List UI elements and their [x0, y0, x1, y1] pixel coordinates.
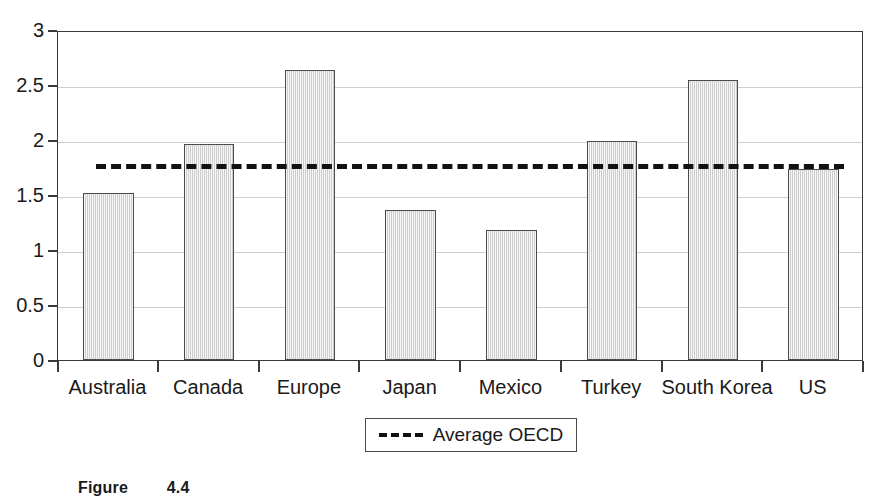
plot-area — [57, 31, 863, 361]
y-tick-mark — [48, 85, 57, 87]
x-tick-mark — [560, 361, 562, 372]
x-tick-mark — [358, 361, 360, 372]
x-axis-label-mexico: Mexico — [460, 374, 561, 400]
x-tick-mark — [862, 361, 864, 372]
x-axis-label-japan: Japan — [359, 374, 460, 400]
bar-canada — [184, 144, 234, 360]
y-tick-mark — [48, 360, 57, 362]
legend: Average OECD — [365, 418, 577, 452]
y-tick-label: 2.5 — [16, 72, 44, 98]
x-axis-label-us: US — [762, 374, 863, 400]
y-tick-label: 0 — [33, 347, 44, 373]
bar-australia — [83, 193, 133, 360]
y-tick-label: 1.5 — [16, 182, 44, 208]
y-tick-label: 1 — [33, 237, 44, 263]
y-tick-label: 2 — [33, 127, 44, 153]
x-tick-mark — [258, 361, 260, 372]
y-tick-mark — [48, 195, 57, 197]
gridline — [58, 87, 862, 88]
x-tick-mark — [761, 361, 763, 372]
gridline — [58, 307, 862, 308]
x-axis-label-europe: Europe — [259, 374, 360, 400]
figure-caption: Figure 4.4 — [78, 479, 190, 497]
bar-mexico — [486, 230, 536, 360]
legend-item-label: Average OECD — [433, 424, 564, 446]
caption-prefix: Figure — [78, 479, 128, 496]
gridline — [58, 197, 862, 198]
x-axis-label-south-korea: South Korea — [662, 374, 763, 400]
bar-europe — [285, 70, 335, 360]
y-axis: 32.521.510.50 — [0, 0, 57, 392]
bar-turkey — [587, 141, 637, 360]
y-tick-mark — [48, 30, 57, 32]
x-axis-label-canada: Canada — [158, 374, 259, 400]
average-oecd-reference-line — [96, 164, 844, 169]
bar-us — [788, 169, 838, 360]
x-axis: AustraliaCanadaEuropeJapanMexicoTurkeySo… — [57, 361, 863, 411]
x-axis-label-australia: Australia — [57, 374, 158, 400]
x-tick-mark — [157, 361, 159, 372]
caption-number: 4.4 — [167, 479, 190, 496]
y-tick-mark — [48, 250, 57, 252]
x-tick-mark — [661, 361, 663, 372]
legend-dashed-line-icon — [379, 433, 423, 437]
x-axis-label-turkey: Turkey — [561, 374, 662, 400]
gridline — [58, 252, 862, 253]
y-tick-label: 0.5 — [16, 292, 44, 318]
x-tick-mark — [57, 361, 59, 372]
y-tick-label: 3 — [33, 17, 44, 43]
gridline — [58, 142, 862, 143]
x-tick-mark — [459, 361, 461, 372]
y-tick-mark — [48, 140, 57, 142]
bar-japan — [385, 210, 435, 360]
bar-south-korea — [688, 80, 738, 361]
y-tick-mark — [48, 305, 57, 307]
